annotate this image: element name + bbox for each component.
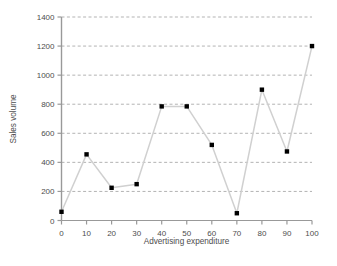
y-tick-label: 400 xyxy=(41,158,55,167)
scatter-chart: 0200400600800100012001400 01020304050607… xyxy=(0,0,337,266)
data-point xyxy=(109,186,113,190)
figure-caption-sliver xyxy=(0,259,337,266)
data-point xyxy=(160,104,164,108)
y-tick-label: 1200 xyxy=(37,42,55,51)
x-tick-label: 0 xyxy=(59,229,64,238)
x-tick-label: 90 xyxy=(282,229,291,238)
y-axis-title: Sales volume xyxy=(9,94,18,144)
data-point xyxy=(260,87,264,91)
x-tick-label: 30 xyxy=(132,229,141,238)
x-tick-label: 10 xyxy=(82,229,91,238)
data-point xyxy=(235,211,239,215)
data-point xyxy=(285,149,289,153)
y-tick-label: 1400 xyxy=(37,13,55,22)
data-point xyxy=(84,152,88,156)
x-axis-title: Advertising expenditure xyxy=(144,237,230,246)
y-tick-label: 800 xyxy=(41,100,55,109)
x-tick-label: 20 xyxy=(107,229,116,238)
y-tick-label: 600 xyxy=(41,129,55,138)
data-point xyxy=(310,44,314,48)
x-tick-label: 80 xyxy=(257,229,266,238)
data-point xyxy=(134,182,138,186)
data-point xyxy=(210,143,214,147)
y-tick-label: 1000 xyxy=(37,71,55,80)
x-tick-label: 100 xyxy=(305,229,319,238)
data-point xyxy=(185,104,189,108)
y-tick-label: 200 xyxy=(41,187,55,196)
data-point xyxy=(59,210,63,214)
x-tick-label: 70 xyxy=(232,229,241,238)
y-tick-label: 0 xyxy=(50,217,55,226)
